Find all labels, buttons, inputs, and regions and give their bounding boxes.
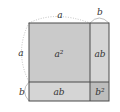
a-squared-label: a²	[55, 49, 64, 59]
ab-bottom-label: ab	[53, 87, 64, 97]
top-a-label: a	[57, 10, 62, 20]
left-b-arc	[25, 82, 30, 101]
left-b-label: b	[19, 87, 25, 97]
top-b-arc	[90, 18, 109, 23]
ab-right-label: ab	[94, 49, 105, 59]
top-b-label: b	[97, 7, 103, 17]
area-model-diagram: a b a b a² ab ab b²	[0, 0, 120, 112]
left-a-label: a	[18, 48, 23, 58]
b-squared-label: b²	[95, 87, 105, 97]
